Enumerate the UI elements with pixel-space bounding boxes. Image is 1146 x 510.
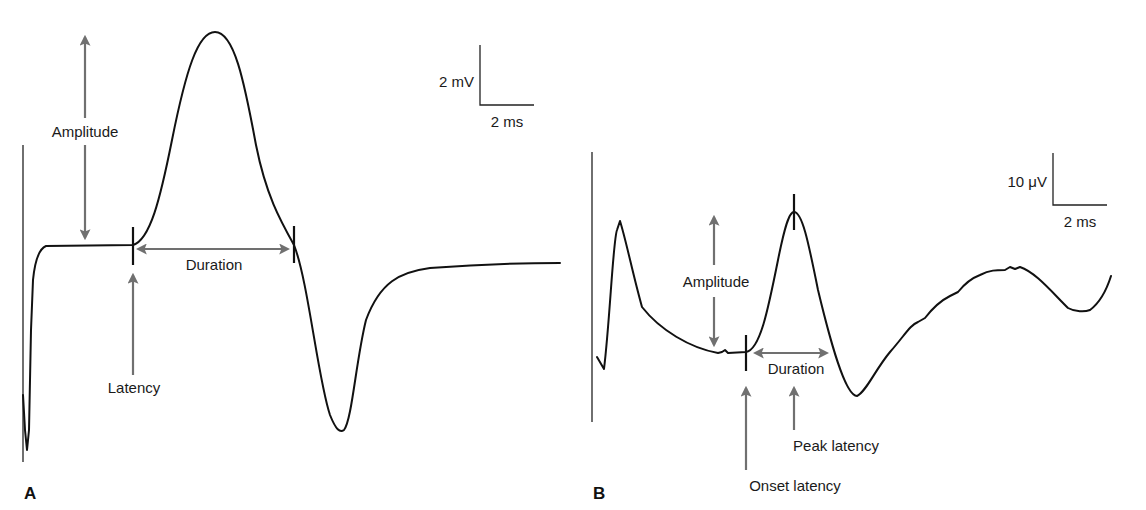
- panel-a-duration-label: Duration: [186, 256, 243, 273]
- panel-b-letter: B: [593, 484, 605, 503]
- panel-b-amplitude-label: Amplitude: [683, 273, 750, 290]
- panel-a: Amplitude Duration Latency 2 mV 2 ms A: [23, 32, 560, 503]
- panel-b-scale-time: 2 ms: [1064, 213, 1097, 230]
- panel-b-duration-label: Duration: [768, 360, 825, 377]
- panel-a-scale-voltage: 2 mV: [439, 73, 474, 90]
- panel-b-onset-latency-label: Onset latency: [749, 477, 841, 494]
- panel-b: Amplitude Duration Peak latency Onset la…: [592, 152, 1111, 503]
- panel-a-scale-bar: [480, 45, 534, 105]
- panel-a-amplitude-label: Amplitude: [52, 123, 119, 140]
- panel-b-scale-voltage: 10 μV: [1008, 173, 1048, 190]
- panel-a-letter: A: [24, 484, 36, 503]
- panel-b-snap-trace: [597, 212, 1111, 396]
- panel-a-latency-label: Latency: [108, 379, 161, 396]
- panel-b-scale-bar: [1053, 153, 1107, 205]
- panel-a-scale-time: 2 ms: [491, 113, 524, 130]
- panel-b-peak-latency-label: Peak latency: [793, 437, 879, 454]
- figure-canvas: Amplitude Duration Latency 2 mV 2 ms A A…: [0, 0, 1146, 510]
